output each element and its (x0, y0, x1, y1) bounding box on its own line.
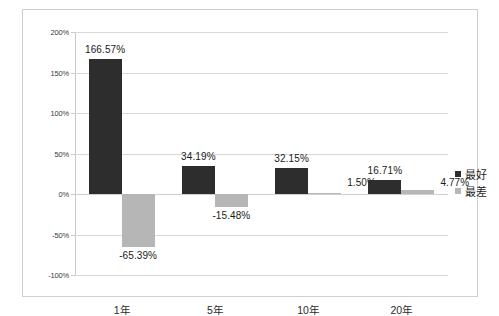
gridline-50% (75, 154, 448, 155)
gridline--100% (75, 275, 448, 276)
bar-最差-1年 (122, 194, 155, 247)
legend-label-worst: 最差 (465, 183, 487, 199)
y-tick-label: 100% (51, 109, 69, 118)
gridline-200% (75, 32, 448, 33)
bar-value-label: 32.15% (274, 153, 309, 164)
bar-最好-10年 (275, 168, 308, 194)
chart-container: 200%150%100%50%0%-50%-100% 166.57%-65.39… (22, 9, 478, 297)
y-tick-label: 200% (51, 28, 69, 37)
category-label-20年: 20年 (391, 302, 413, 316)
chart-legend: 最好 最差 (455, 165, 487, 199)
bar-value-label: 166.57% (85, 44, 125, 55)
axis-tick (71, 32, 75, 33)
y-tick-label: 50% (55, 149, 69, 158)
gridline-100% (75, 113, 448, 114)
legend-label-best: 最好 (465, 166, 487, 182)
bar-最好-5年 (182, 166, 215, 194)
y-tick-label: 150% (51, 68, 69, 77)
y-tick-label: -100% (48, 271, 69, 280)
bar-最好-1年 (89, 59, 122, 194)
axis-tick (71, 275, 75, 276)
bar-最差-5年 (215, 194, 248, 207)
axis-tick (71, 154, 75, 155)
axis-tick (71, 235, 75, 236)
bar-最好-20年 (368, 180, 401, 194)
category-label-10年: 10年 (297, 302, 319, 316)
bar-value-label: -65.39% (119, 250, 157, 261)
bar-value-label: 16.71% (368, 165, 403, 176)
axis-tick (71, 73, 75, 74)
bar-value-label: -15.48% (212, 210, 250, 221)
plot-area: 200%150%100%50%0%-50%-100% 166.57%-65.39… (75, 32, 448, 275)
y-tick-label: -50% (52, 230, 69, 239)
axis-tick (71, 194, 75, 195)
y-tick-label: 0% (59, 190, 69, 199)
bar-最差-10年 (308, 193, 341, 194)
legend-item-worst: 最差 (455, 182, 487, 199)
gridline-150% (75, 73, 448, 74)
category-label-1年: 1年 (114, 302, 130, 316)
legend-swatch-best-icon (455, 171, 461, 177)
legend-item-best: 最好 (455, 165, 487, 182)
bar-最差-20年 (401, 190, 434, 194)
legend-swatch-worst-icon (455, 188, 461, 194)
bar-value-label: 34.19% (181, 151, 216, 162)
axis-tick (71, 113, 75, 114)
category-label-5年: 5年 (207, 302, 223, 316)
